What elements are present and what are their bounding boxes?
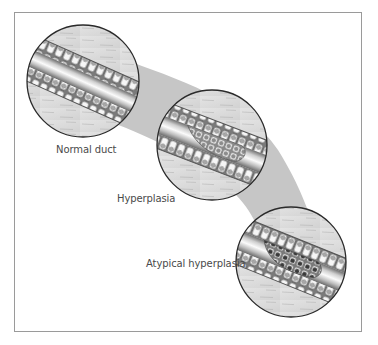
- duct-progression-illustration: [0, 0, 378, 345]
- label-normal-duct: Normal duct: [56, 144, 116, 155]
- label-hyperplasia: Hyperplasia: [117, 193, 175, 204]
- label-atypical-hyperplasia: Atypical hyperplasia: [146, 258, 245, 269]
